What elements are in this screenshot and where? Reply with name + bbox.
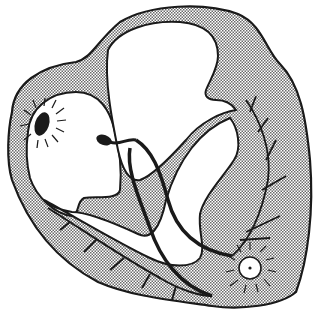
heart-conduction-diagram [0,0,324,322]
atrium-chamber [27,92,121,216]
diagram-canvas [0,0,324,322]
